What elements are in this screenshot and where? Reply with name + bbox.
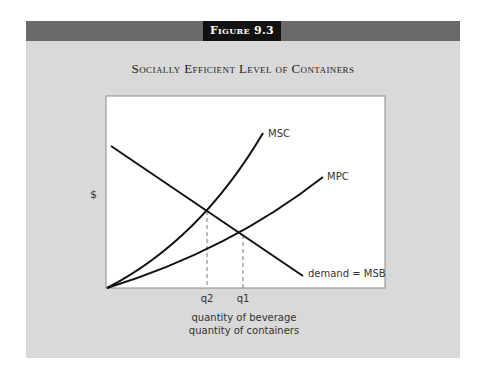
plot-area [106,96,385,288]
q1-tick-label: q1 [237,293,250,304]
y-axis-label: $ [90,188,97,201]
x-axis-label-containers: quantity of containers [189,325,299,336]
x-axis-label-beverage: quantity of beverage [192,312,297,323]
q2-tick-label: q2 [201,293,214,304]
msc-label: MSC [268,128,290,139]
demand-msb-label: demand = MSB [308,268,386,279]
mpc-label: MPC [327,171,349,182]
chart-plot: MSC MPC demand = MSB $ q2 q1 quantity of… [0,0,485,381]
